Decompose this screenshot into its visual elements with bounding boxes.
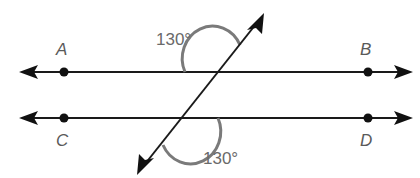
label-a: A [55, 40, 67, 59]
parallel-lines-diagram: A B C D 130° 130° [0, 0, 420, 178]
point-a [60, 68, 69, 77]
point-b [364, 68, 373, 77]
angle-label-upper: 130° [156, 30, 191, 49]
point-c [60, 114, 69, 123]
label-b: B [360, 40, 371, 59]
angle-label-lower: 130° [203, 149, 238, 168]
label-c: C [56, 131, 69, 150]
line-ab [19, 65, 413, 79]
point-d [364, 114, 373, 123]
line-cd [19, 111, 413, 125]
label-d: D [360, 131, 372, 150]
